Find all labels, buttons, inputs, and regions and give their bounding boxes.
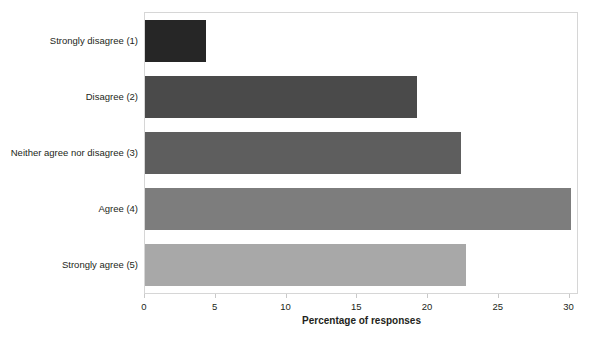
x-axis-tick-mark [498,294,499,298]
y-axis-tick-label: Agree (4) [0,203,138,215]
bar-chart-figure: Strongly disagree (1)Disagree (2)Neither… [0,0,606,339]
x-axis-tick-label: 25 [492,301,503,312]
x-axis-tick-label: 10 [280,301,291,312]
x-axis-tick-mark [144,294,145,298]
x-axis-tick-mark [569,294,570,298]
y-axis-labels: Strongly disagree (1)Disagree (2)Neither… [0,13,138,293]
x-axis-tick-mark [215,294,216,298]
x-axis-tick-label: 20 [422,301,433,312]
bar [145,20,206,62]
y-axis-tick-label: Disagree (2) [0,91,138,103]
bars-layer [145,13,578,293]
y-axis-tick-label: Strongly disagree (1) [0,35,138,47]
x-axis-tick-label: 15 [351,301,362,312]
x-axis-tick-mark [356,294,357,298]
bar [145,132,461,174]
x-axis-tick-mark [427,294,428,298]
bar-row [145,132,461,174]
x-axis-tick-mark [286,294,287,298]
x-axis: 051015202530 [144,294,579,316]
bar-row [145,244,466,286]
y-axis-tick-label: Strongly agree (5) [0,259,138,271]
bar-row [145,20,206,62]
bar [145,76,417,118]
bar-row [145,188,571,230]
x-axis-tick-label: 0 [141,301,146,312]
x-axis-title: Percentage of responses [144,315,579,326]
x-axis-tick-label: 30 [563,301,574,312]
bar [145,188,571,230]
bar-row [145,76,417,118]
y-axis-tick-label: Neither agree nor disagree (3) [0,147,138,159]
x-axis-tick-label: 5 [212,301,217,312]
bar [145,244,466,286]
